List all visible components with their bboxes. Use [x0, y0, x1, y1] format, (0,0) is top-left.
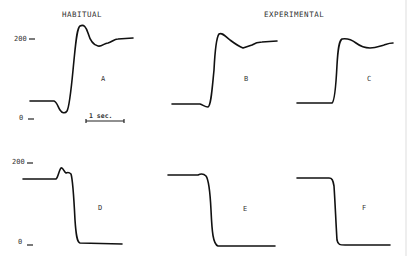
panel-label-c: C	[367, 75, 371, 83]
panel-label-a: A	[101, 75, 106, 83]
curve-a	[30, 25, 133, 112]
heading-habitual: HABITUAL	[62, 10, 102, 19]
curve-d	[23, 168, 122, 244]
panel-label-e: E	[243, 205, 247, 213]
curve-e	[168, 174, 275, 246]
y-label-200-bottom: 200	[12, 158, 25, 166]
y-label-0-top: 0	[19, 114, 23, 122]
heading-experimental: EXPERIMENTAL	[264, 10, 324, 19]
scale-bar-label: 1 sec.	[89, 112, 112, 120]
panel-label-f: F	[362, 204, 366, 212]
curve-f	[297, 178, 390, 245]
panel-label-b: B	[244, 75, 248, 83]
y-label-0-bottom: 0	[18, 238, 22, 246]
curve-b	[172, 33, 277, 107]
panel-label-d: D	[98, 204, 102, 212]
figure: HABITUAL EXPERIMENTAL 200 0 200 0 1 sec.…	[0, 0, 407, 256]
y-label-200-top: 200	[14, 35, 27, 43]
curve-c	[297, 39, 393, 103]
